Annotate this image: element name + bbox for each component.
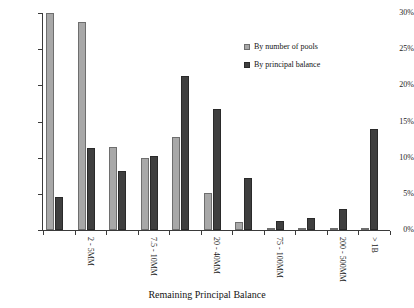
bar-pools bbox=[235, 222, 243, 230]
bar-pools bbox=[330, 228, 338, 230]
x-axis-tick bbox=[201, 231, 202, 235]
bar-balance bbox=[276, 221, 284, 230]
bar-group bbox=[172, 13, 204, 230]
x-axis-tick bbox=[264, 231, 265, 235]
bar-group bbox=[141, 13, 173, 230]
x-axis-tick bbox=[232, 231, 233, 235]
x-axis-tick-label: 2 - 5MM bbox=[86, 237, 94, 266]
bar-balance bbox=[55, 197, 63, 230]
x-axis-tick bbox=[169, 231, 170, 235]
x-axis-tick bbox=[138, 231, 139, 235]
bar-pools bbox=[46, 13, 54, 230]
bar-pools bbox=[172, 137, 180, 230]
x-axis-tick bbox=[327, 231, 328, 235]
bar-group bbox=[330, 13, 362, 230]
bar-group bbox=[361, 13, 393, 230]
legend-swatch-icon bbox=[244, 62, 250, 68]
x-axis-tick-label: 75 - 100MM bbox=[275, 237, 283, 278]
x-axis-tick-label: 20 - 40MM bbox=[212, 237, 220, 274]
bar-balance bbox=[370, 129, 378, 230]
bar-pools bbox=[204, 193, 212, 230]
x-axis-tick-label: 200 - 500MM bbox=[338, 237, 346, 282]
bar-balance bbox=[244, 178, 252, 230]
bar-group bbox=[204, 13, 236, 230]
x-axis-tick bbox=[43, 231, 44, 235]
chart-legend: By number of poolsBy principal balance bbox=[244, 42, 320, 78]
bar-balance bbox=[118, 171, 126, 230]
bar-chart: 0%5%10%15%20%25%30% 2 - 5MM7.5 - 10MM20 … bbox=[0, 0, 414, 308]
x-axis-line bbox=[42, 230, 390, 231]
x-axis-tick bbox=[295, 231, 296, 235]
x-axis-tick bbox=[75, 231, 76, 235]
x-axis-tick bbox=[390, 231, 391, 235]
bar-group bbox=[46, 13, 78, 230]
bar-pools bbox=[298, 228, 306, 230]
bar-balance bbox=[181, 76, 189, 230]
bar-pools bbox=[361, 228, 369, 230]
legend-item: By number of pools bbox=[244, 42, 320, 51]
bar-pools bbox=[109, 147, 117, 230]
bar-balance bbox=[87, 148, 95, 230]
legend-label: By number of pools bbox=[254, 42, 318, 51]
x-axis-tick-label: 7.5 - 10MM bbox=[149, 237, 157, 276]
bar-balance bbox=[307, 218, 315, 230]
legend-item: By principal balance bbox=[244, 60, 320, 69]
plot-area bbox=[43, 13, 390, 230]
x-axis-tick bbox=[106, 231, 107, 235]
x-axis-tick-label: > 1B bbox=[370, 237, 378, 253]
bar-balance bbox=[213, 109, 221, 230]
bar-balance bbox=[150, 156, 158, 230]
bar-pools bbox=[141, 158, 149, 230]
legend-label: By principal balance bbox=[254, 60, 320, 69]
bar-group bbox=[109, 13, 141, 230]
bar-pools bbox=[78, 22, 86, 230]
x-axis-title: Remaining Principal Balance bbox=[0, 289, 414, 300]
x-axis-tick bbox=[358, 231, 359, 235]
bar-pools bbox=[267, 228, 275, 230]
bar-group bbox=[78, 13, 110, 230]
bar-balance bbox=[339, 209, 347, 230]
legend-swatch-icon bbox=[244, 44, 250, 50]
